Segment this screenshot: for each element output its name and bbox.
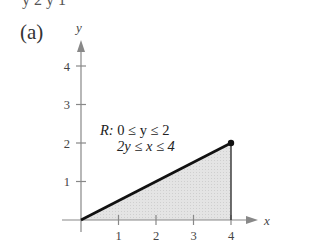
x-tick-label: 4 (228, 229, 235, 243)
region-x-bounds: 2y ≤ x ≤ 4 (117, 138, 175, 154)
y-axis-arrow-icon (77, 40, 85, 52)
x-axis-arrow-icon (246, 216, 258, 224)
x-tick-label: 1 (115, 229, 121, 243)
region-definition-line2: 2y ≤ x ≤ 4 (117, 138, 175, 155)
region-name: R: (100, 122, 114, 138)
x-axis-label: x (263, 213, 270, 228)
y-axis-label: y (74, 20, 82, 35)
y-tick-label: 3 (64, 98, 70, 112)
x-tick-label: 3 (190, 229, 196, 243)
y-tick-label: 4 (64, 60, 71, 74)
x-tick-label: 2 (153, 229, 159, 243)
y-tick-label: 2 (64, 137, 70, 151)
region-definition-line1: R: 0 ≤ y ≤ 2 (100, 122, 169, 139)
corner-point (228, 140, 234, 146)
y-tick-label: 1 (64, 175, 70, 189)
region-y-bounds: 0 ≤ y ≤ 2 (117, 122, 169, 138)
